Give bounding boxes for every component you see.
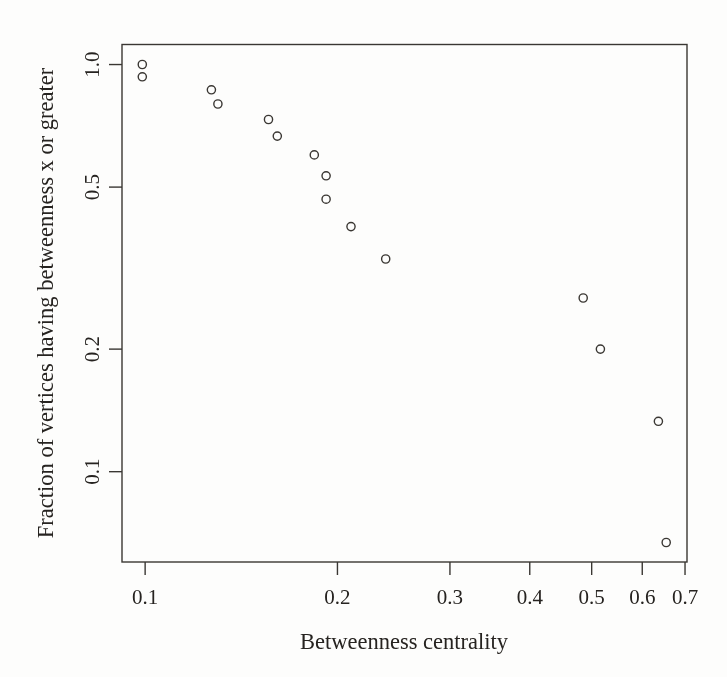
y-axis: 1.00.50.20.1 — [80, 51, 122, 484]
x-axis-title: Betweenness centrality — [300, 629, 509, 654]
y-axis-tick-label: 0.2 — [80, 336, 104, 362]
data-point-marker — [347, 223, 355, 231]
data-point-marker — [654, 417, 662, 425]
data-point-marker — [322, 172, 330, 180]
data-point-marker — [207, 86, 215, 94]
y-axis-tick-label: 1.0 — [80, 51, 104, 77]
data-point-marker — [138, 73, 146, 81]
x-axis-tick-label: 0.2 — [324, 585, 350, 609]
data-point-marker — [214, 100, 222, 108]
plot-canvas: 0.10.20.30.40.50.60.7 1.00.50.20.1 Betwe… — [0, 0, 727, 677]
betweenness-ccdf-figure: 0.10.20.30.40.50.60.7 1.00.50.20.1 Betwe… — [0, 0, 727, 677]
data-points-layer — [138, 60, 670, 546]
x-axis-tick-label: 0.5 — [579, 585, 605, 609]
data-point-marker — [322, 195, 330, 203]
data-point-marker — [273, 132, 281, 140]
x-axis-tick-label: 0.3 — [437, 585, 463, 609]
y-axis-tick-label: 0.5 — [80, 174, 104, 200]
data-point-marker — [579, 294, 587, 302]
x-axis-tick-label: 0.6 — [629, 585, 655, 609]
x-axis-tick-label: 0.4 — [517, 585, 544, 609]
x-axis: 0.10.20.30.40.50.60.7 — [132, 562, 698, 609]
data-point-marker — [382, 255, 390, 263]
data-point-marker — [662, 538, 670, 546]
data-point-marker — [310, 151, 318, 159]
y-axis-tick-label: 0.1 — [80, 459, 104, 485]
x-axis-tick-label: 0.1 — [132, 585, 158, 609]
data-point-marker — [596, 345, 604, 353]
data-point-marker — [264, 115, 272, 123]
data-point-marker — [138, 60, 146, 68]
plot-frame — [122, 45, 687, 563]
y-axis-title: Fraction of vertices having betweenness … — [33, 67, 58, 538]
x-axis-tick-label: 0.7 — [672, 585, 698, 609]
